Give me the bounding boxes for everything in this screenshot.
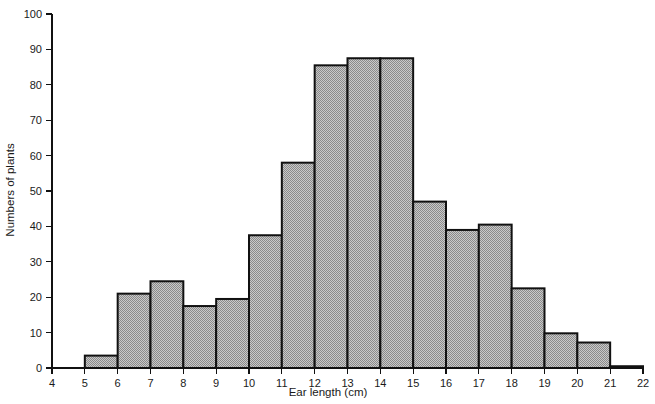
bar-rect-7-8 <box>151 281 184 368</box>
x-tick-label: 21 <box>604 377 616 389</box>
histogram-bar <box>413 202 446 368</box>
y-tick-label: 100 <box>24 8 42 20</box>
histogram-bar <box>545 333 578 368</box>
bar-rect-14-15 <box>380 58 413 368</box>
histogram-bar <box>118 294 151 368</box>
bar-rect-6-7 <box>118 294 151 368</box>
x-tick-label: 9 <box>213 377 219 389</box>
histogram-bar <box>85 356 118 368</box>
bar-rect-16-17 <box>446 230 479 368</box>
histogram-bar <box>446 230 479 368</box>
bar-rect-8-9 <box>183 306 216 368</box>
histogram-bar <box>577 343 610 368</box>
x-tick-label: 17 <box>473 377 485 389</box>
histogram-bar <box>249 235 282 368</box>
y-tick-label: 80 <box>30 79 42 91</box>
bar-rect-12-13 <box>315 65 348 368</box>
chart-canvas: 45678910111213141516171819202122 0102030… <box>0 0 655 404</box>
histogram-bar <box>282 163 315 368</box>
bar-rect-18-19 <box>512 288 545 368</box>
histogram-bar <box>512 288 545 368</box>
y-tick-label: 0 <box>36 362 42 374</box>
bar-rect-17-18 <box>479 225 512 368</box>
x-tick-label: 7 <box>147 377 153 389</box>
x-axis-title: Ear length (cm) <box>289 386 368 398</box>
x-tick-label: 6 <box>115 377 121 389</box>
bar-rect-13-14 <box>348 58 381 368</box>
y-tick-label: 30 <box>30 256 42 268</box>
x-tick-label: 4 <box>49 377 55 389</box>
x-tick-label: 20 <box>571 377 583 389</box>
x-tick-label: 14 <box>374 377 386 389</box>
x-tick-label: 18 <box>506 377 518 389</box>
histogram-bar <box>315 65 348 368</box>
x-tick-label: 5 <box>82 377 88 389</box>
y-tick-label: 10 <box>30 327 42 339</box>
bar-rect-15-16 <box>413 202 446 368</box>
bar-rect-9-10 <box>216 299 249 368</box>
histogram-bar <box>151 281 184 368</box>
bar-rect-10-11 <box>249 235 282 368</box>
x-tick-label: 16 <box>440 377 452 389</box>
histogram-bar <box>348 58 381 368</box>
x-tick-label: 22 <box>637 377 649 389</box>
bar-rect-5-6 <box>85 356 118 368</box>
bar-rect-19-20 <box>545 333 578 368</box>
y-tick-label: 20 <box>30 291 42 303</box>
x-tick-label: 10 <box>243 377 255 389</box>
y-tick-label: 60 <box>30 150 42 162</box>
x-tick-label: 8 <box>180 377 186 389</box>
y-tick-label: 70 <box>30 114 42 126</box>
bar-rect-20-21 <box>577 343 610 368</box>
x-tick-label: 11 <box>276 377 287 389</box>
histogram-bar <box>216 299 249 368</box>
x-tick-label: 15 <box>407 377 419 389</box>
y-axis-title: Numbers of plants <box>4 143 16 237</box>
bar-rect-11-12 <box>282 163 315 368</box>
y-tick-label: 50 <box>30 185 42 197</box>
y-tick-label: 90 <box>30 43 42 55</box>
histogram-chart: 45678910111213141516171819202122 0102030… <box>0 0 655 404</box>
histogram-bar <box>479 225 512 368</box>
histogram-bar <box>380 58 413 368</box>
y-tick-label: 40 <box>30 220 42 232</box>
histogram-bar <box>183 306 216 368</box>
x-tick-label: 19 <box>538 377 550 389</box>
